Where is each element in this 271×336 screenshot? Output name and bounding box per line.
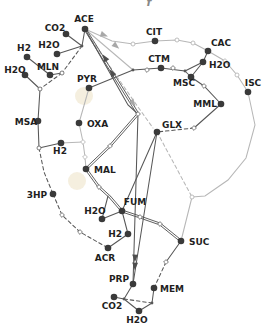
node-label-PYR: PYR xyxy=(77,74,97,84)
node-label-H2Oc: H2O xyxy=(209,60,231,70)
node-label-H2c: H2 xyxy=(108,229,122,239)
node-3HP xyxy=(50,191,57,198)
node-MLN xyxy=(47,72,54,79)
node-label-GLX: GLX xyxy=(162,120,182,130)
node-CTM xyxy=(158,65,165,72)
node-label-MSA: MSA xyxy=(15,117,37,127)
metabolic-network-figure: fACECO2H2OH2MLNH2OPYRCITCACCTMH2OMSCISCM… xyxy=(0,0,271,336)
node-MML xyxy=(218,101,225,108)
node-label-SUC: SUC xyxy=(189,237,210,247)
node-label-FUM: FUM xyxy=(124,197,146,207)
node-CO2b xyxy=(111,294,118,301)
node-PYR xyxy=(86,85,93,92)
transition-circle-marker xyxy=(131,42,135,46)
node-OXA xyxy=(76,120,83,127)
node-CAC xyxy=(205,48,212,55)
node-H2Od xyxy=(99,216,106,223)
network-svg: fACECO2H2OH2MLNH2OPYRCITCACCTMH2OMSCISCM… xyxy=(0,0,271,336)
node-H2Oc xyxy=(200,59,207,66)
node-label-CTM: CTM xyxy=(148,54,170,64)
node-label-H2b: H2 xyxy=(53,146,67,156)
node-label-ACE: ACE xyxy=(74,14,94,24)
junction-dot xyxy=(132,69,135,72)
junction-dot xyxy=(123,298,126,301)
node-label-ACR: ACR xyxy=(95,253,116,263)
node-H2Oe xyxy=(136,308,143,315)
node-label-H2Oe: H2O xyxy=(126,315,148,325)
node-label-MLN: MLN xyxy=(37,62,59,72)
transition-circle-marker xyxy=(60,71,64,75)
node-label-H2Oa: H2O xyxy=(38,40,60,50)
paper-halo xyxy=(68,172,86,190)
node-label-H2Ob: H2O xyxy=(4,65,26,75)
node-ACR xyxy=(105,245,112,252)
node-CIT xyxy=(152,38,159,45)
transition-circle-marker xyxy=(235,73,239,77)
node-ACE xyxy=(82,26,89,33)
node-label-H2a: H2 xyxy=(17,43,31,53)
node-PRP xyxy=(130,281,137,288)
node-label-MEM: MEM xyxy=(160,284,184,294)
transition-circle-marker xyxy=(191,41,195,45)
node-label-OXA: OXA xyxy=(87,119,108,129)
transition-circle-marker xyxy=(37,146,41,150)
node-H2Oa xyxy=(54,51,61,58)
node-label-MSC: MSC xyxy=(173,78,195,88)
node-ISC xyxy=(245,89,252,96)
node-label-H2Od: H2O xyxy=(84,206,106,216)
junction-dot xyxy=(184,70,187,73)
junction-dot xyxy=(81,45,84,48)
node-H2c xyxy=(125,231,132,238)
transition-circle-marker xyxy=(175,38,179,42)
node-label-CO2a: CO2 xyxy=(45,23,66,33)
node-label-CIT: CIT xyxy=(146,27,163,37)
transition-circle-marker xyxy=(38,87,42,91)
node-MEM xyxy=(151,285,158,292)
node-label-MML: MML xyxy=(193,99,217,109)
node-GLX xyxy=(154,129,161,136)
node-label-MAL: MAL xyxy=(94,165,116,175)
node-MAL xyxy=(83,166,90,173)
node-SUC xyxy=(178,238,185,245)
junction-dot xyxy=(151,302,154,305)
node-label-CAC: CAC xyxy=(211,38,232,48)
node-label-PRP: PRP xyxy=(109,274,130,284)
transition-circle-marker xyxy=(190,195,194,199)
node-H2a xyxy=(24,54,31,61)
node-label-CO2b: CO2 xyxy=(102,301,123,311)
node-label-3HP: 3HP xyxy=(27,190,48,200)
node-FUM xyxy=(119,208,126,215)
node-label-ISC: ISC xyxy=(245,78,262,88)
